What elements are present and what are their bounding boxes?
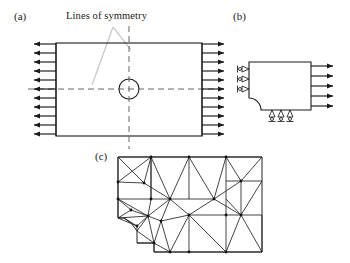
panel-a-group	[28, 26, 228, 149]
traction-arrows-left	[34, 44, 56, 134]
mesh-boundary	[118, 157, 262, 252]
quarter-model-outline	[249, 62, 311, 110]
panel-c-mesh-group	[117, 156, 262, 254]
figure-canvas: (a) (b) (c) Lines of symmetry	[0, 0, 350, 263]
roller-supports-bottom	[269, 110, 294, 122]
traction-arrows-right	[202, 44, 224, 134]
leader-lines	[92, 27, 131, 85]
panel-b-group	[238, 62, 334, 122]
diagram-svg	[0, 0, 350, 263]
mesh-edges	[118, 157, 262, 252]
roller-supports-left	[238, 66, 250, 93]
traction-arrows-right-quarter	[311, 66, 333, 106]
